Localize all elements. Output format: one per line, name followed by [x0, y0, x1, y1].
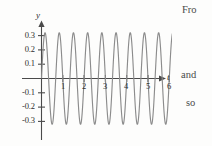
x-tick-label-5: 5: [143, 81, 153, 91]
sinusoid-figure: y t 0.3 0.2 0.1 -0.1 -0.2 -0.3 1 2 3 4 5…: [0, 0, 172, 146]
x-tick-label-6: 6: [164, 81, 174, 91]
x-tick-label-1: 1: [58, 81, 68, 91]
y-axis-label: y: [36, 10, 40, 20]
text-fragment-so: so: [186, 97, 195, 108]
y-tick-label-0.3: 0.3: [6, 30, 35, 40]
y-tick-label-neg0.3: -0.3: [2, 115, 35, 125]
x-tick-label-3: 3: [100, 81, 110, 91]
y-tick-label-neg0.1: -0.1: [2, 87, 35, 97]
text-fragment-and: and: [181, 69, 196, 80]
text-fragment-from: Fro: [182, 4, 197, 15]
page-fragment: y t 0.3 0.2 0.1 -0.1 -0.2 -0.3 1 2 3 4 5…: [0, 0, 212, 146]
y-tick-label-neg0.2: -0.2: [2, 101, 35, 111]
x-tick-label-2: 2: [79, 81, 89, 91]
x-tick-label-4: 4: [121, 81, 131, 91]
y-tick-label-0.2: 0.2: [6, 44, 35, 54]
y-tick-label-0.1: 0.1: [6, 58, 35, 68]
